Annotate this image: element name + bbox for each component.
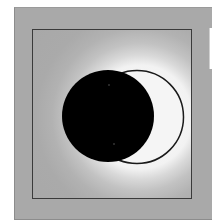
eclipse-illustration: solar eclipse	[0, 0, 212, 224]
moon-disc	[62, 70, 154, 162]
side-card	[209, 28, 212, 69]
eclipse-graphic	[33, 30, 192, 199]
star-icon	[113, 143, 115, 145]
inner-frame	[32, 29, 192, 199]
star-icon	[108, 84, 110, 86]
